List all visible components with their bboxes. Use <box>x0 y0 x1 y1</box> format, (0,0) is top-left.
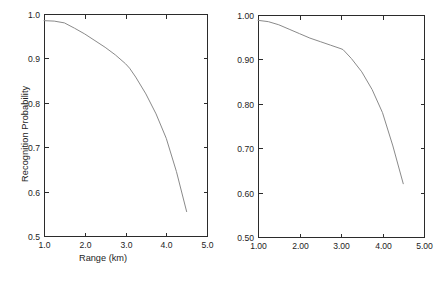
axis-frame <box>45 15 208 237</box>
plot-area-left: 1.02.03.04.05.00.50.60.70.80.91.0 <box>0 0 218 282</box>
chart-panel-right: 1.002.003.004.005.000.500.600.700.800.90… <box>218 0 436 282</box>
y-tick-label: 0.50 <box>237 233 254 243</box>
x-tick-label: 5.00 <box>416 241 433 251</box>
y-tick-label: 1.00 <box>237 11 254 21</box>
y-tick-label: 0.5 <box>28 232 40 242</box>
chart-panel-left: 1.02.03.04.05.00.50.60.70.80.91.0 Recogn… <box>0 0 218 282</box>
x-tick-label: 1.00 <box>250 241 267 251</box>
plot-area-right: 1.002.003.004.005.000.500.600.700.800.90… <box>218 0 436 282</box>
x-tick-label: 1.0 <box>39 240 51 250</box>
y-tick-label: 0.60 <box>237 189 254 199</box>
y-tick-label: 1.0 <box>28 10 40 20</box>
x-tick-label: 3.00 <box>333 241 350 251</box>
x-tick-label: 2.0 <box>80 240 92 250</box>
figure-two-panel-line-charts: 1.02.03.04.05.00.50.60.70.80.91.0 Recogn… <box>0 0 436 282</box>
x-tick-label: 4.0 <box>161 240 173 250</box>
x-tick-label: 4.00 <box>375 241 392 251</box>
x-tick-label: 2.00 <box>292 241 309 251</box>
y-tick-label: 0.90 <box>237 55 254 65</box>
x-axis-title-left: Range (km) <box>79 253 127 263</box>
y-tick-label: 0.6 <box>28 188 40 198</box>
y-tick-label: 0.80 <box>237 100 254 110</box>
y-tick-label: 0.70 <box>237 144 254 154</box>
x-tick-label: 3.0 <box>121 240 133 250</box>
data-series-line <box>44 21 187 212</box>
y-tick-label: 0.9 <box>28 54 40 64</box>
data-series-line <box>258 20 403 183</box>
x-tick-label: 5.0 <box>202 240 214 250</box>
y-axis-title-left: Recognition Probability <box>20 86 30 182</box>
